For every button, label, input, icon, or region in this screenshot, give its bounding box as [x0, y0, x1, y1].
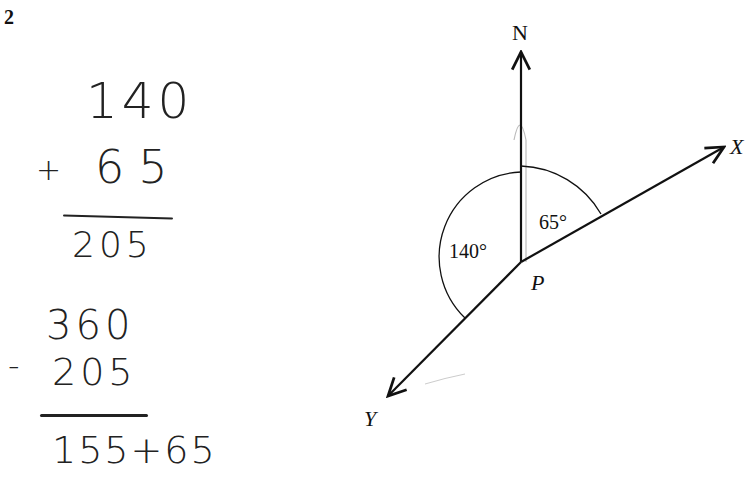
north-label: N — [512, 20, 528, 45]
angle-right-label: 65° — [539, 211, 567, 233]
point-label: P — [530, 270, 544, 295]
y-label: Y — [364, 406, 379, 431]
pencil-mark — [425, 374, 465, 384]
x-label: X — [729, 134, 745, 159]
angle-left-label: 140° — [449, 240, 487, 262]
bearings-diagram: N X Y P 140° 65° — [0, 0, 749, 485]
x-line — [521, 147, 724, 262]
angle-arc-right — [521, 166, 601, 214]
